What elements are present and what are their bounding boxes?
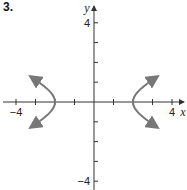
x-tick-label: −4 (10, 106, 23, 118)
y-tick-label: 4 (84, 17, 90, 29)
y-tick-label: −4 (77, 175, 90, 187)
x-tick-label: 4 (169, 106, 175, 118)
hyperbola-plot: 4−44−4xy (0, 0, 187, 190)
y-axis-label: y (83, 1, 90, 15)
x-axis-label: x (179, 105, 186, 119)
